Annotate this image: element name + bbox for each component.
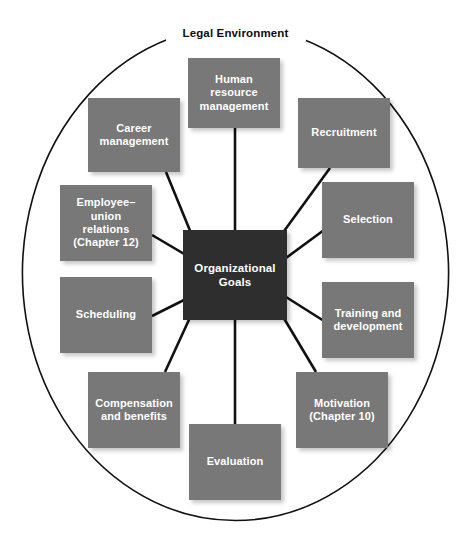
node-label-scheduling: Scheduling xyxy=(76,308,136,321)
node-recruitment[interactable]: Recruitment xyxy=(298,98,390,168)
node-label-human-resource-management: Human resource management xyxy=(200,73,269,113)
node-label-motivation: Motivation (Chapter 10) xyxy=(309,397,374,424)
node-compensation-and-benefits[interactable]: Compensation and benefits xyxy=(88,372,180,448)
node-career-management[interactable]: Career management xyxy=(88,98,180,172)
connector-employee-union-relations xyxy=(152,235,186,255)
connector-training-and-development xyxy=(286,297,324,321)
node-selection[interactable]: Selection xyxy=(322,182,414,258)
node-scheduling[interactable]: Scheduling xyxy=(60,277,152,353)
node-organizational-goals[interactable]: Organizational Goals xyxy=(183,230,287,320)
connector-compensation-and-benefits xyxy=(165,311,193,372)
node-label-training-and-development: Training and development xyxy=(334,307,403,334)
hr-system-diagram: Legal Environment Human resource managem… xyxy=(0,0,471,540)
node-label-evaluation: Evaluation xyxy=(207,455,264,468)
node-label-organizational-goals: Organizational Goals xyxy=(194,261,275,289)
connector-career-management xyxy=(166,172,193,238)
node-label-selection: Selection xyxy=(343,213,393,226)
node-evaluation[interactable]: Evaluation xyxy=(189,424,281,500)
connector-selection xyxy=(286,230,324,258)
node-human-resource-management[interactable]: Human resource management xyxy=(188,58,280,128)
node-training-and-development[interactable]: Training and development xyxy=(322,282,414,358)
node-label-compensation-and-benefits: Compensation and benefits xyxy=(95,397,173,424)
node-label-employee-union-relations: Employee– union relations (Chapter 12) xyxy=(73,196,138,250)
node-label-recruitment: Recruitment xyxy=(311,126,376,139)
node-employee-union-relations[interactable]: Employee– union relations (Chapter 12) xyxy=(60,185,152,261)
node-label-career-management: Career management xyxy=(100,122,169,149)
connector-scheduling xyxy=(152,299,186,316)
node-motivation[interactable]: Motivation (Chapter 10) xyxy=(296,372,388,448)
legal-environment-label: Legal Environment xyxy=(166,25,306,41)
